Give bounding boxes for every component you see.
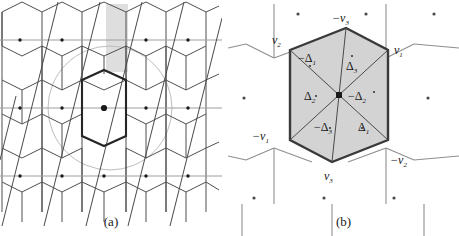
panel-b-caption: (b) (228, 214, 459, 230)
center-lattice-point (336, 92, 342, 98)
vertex-label-v3: v3 (324, 169, 333, 185)
shaded-band (106, 4, 128, 72)
panel-a-drawing (0, 0, 222, 236)
panel-b: v2 −v3 v1 −v1 v3 −v2 −Δ1 Δ3 Δ2 −Δ2 −Δ3 Δ… (228, 0, 459, 236)
figure-container: (a) (0, 0, 459, 236)
vertex-label-neg-v3: −v3 (332, 11, 349, 27)
vertex-label-v1: v1 (394, 43, 403, 59)
panel-a-caption: (a) (0, 214, 222, 230)
vertex-label-v2: v2 (272, 33, 281, 49)
panel-b-drawing: v2 −v3 v1 −v1 v3 −v2 −Δ1 Δ3 Δ2 −Δ2 −Δ3 Δ… (228, 0, 459, 236)
panel-a: (a) (0, 0, 222, 236)
vertex-label-neg-v1: −v1 (252, 129, 269, 145)
vertex-label-neg-v2: −v2 (390, 153, 407, 169)
